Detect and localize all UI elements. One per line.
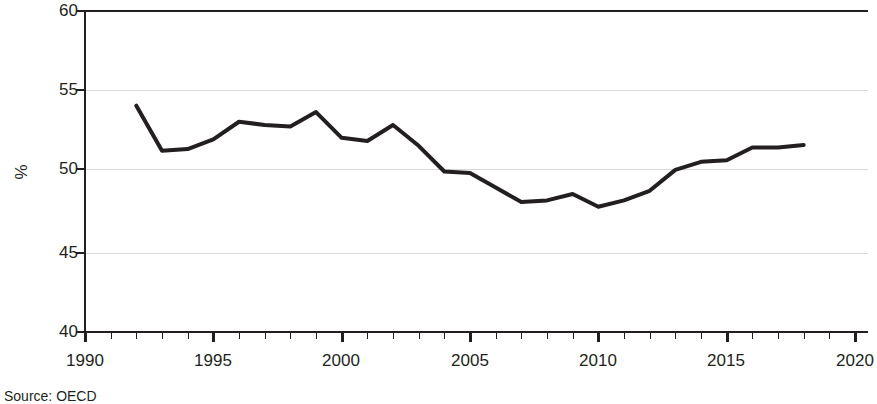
gridlines: [85, 90, 868, 253]
x-axis-ticks: [86, 332, 856, 342]
source-note: Source: OECD: [4, 388, 97, 404]
data-line-series-1: [136, 106, 803, 207]
y-axis-ticks: [76, 11, 85, 332]
